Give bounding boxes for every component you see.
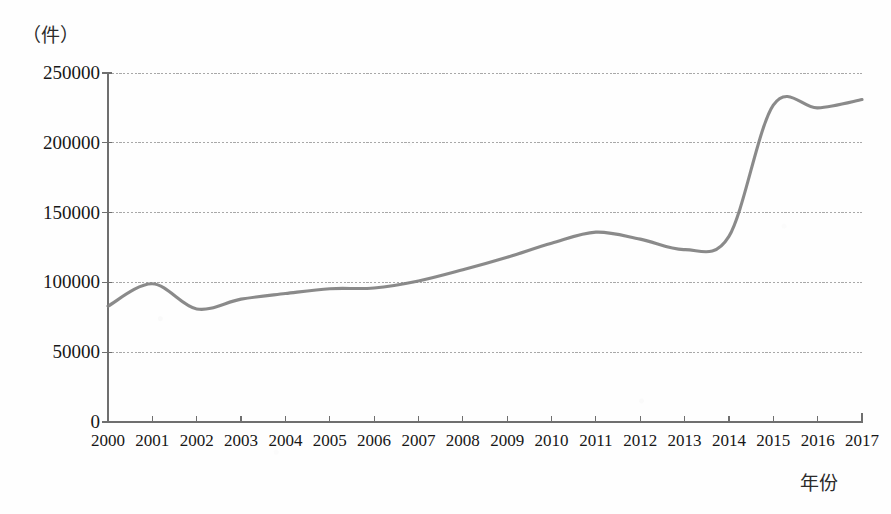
x-axis-tick-label: 2001 [135, 431, 169, 451]
chart-page: （件） 050000100000150000200000250000 20002… [0, 0, 891, 514]
x-axis-tick-label: 2012 [623, 431, 657, 451]
x-axis-tick-label: 2010 [535, 431, 569, 451]
x-axis-title: 年份 [800, 468, 838, 495]
data-series-line [108, 96, 862, 309]
x-axis-tick-label: 2007 [401, 431, 435, 451]
x-axis-tick-label: 2009 [490, 431, 524, 451]
x-axis-tick-label: 2014 [712, 431, 746, 451]
x-axis-tick-label: 2006 [357, 431, 391, 451]
x-axis-tick-label: 2005 [313, 431, 347, 451]
x-axis-tick-label: 2015 [756, 431, 790, 451]
x-axis-tick-label: 2016 [801, 431, 835, 451]
x-axis-tick-label: 2017 [845, 431, 879, 451]
x-axis-tick-label: 2004 [268, 431, 302, 451]
x-axis-tick-label: 2008 [446, 431, 480, 451]
x-axis-tick-label: 2000 [91, 431, 125, 451]
x-axis-tick-label: 2002 [180, 431, 214, 451]
y-axis-ticks [102, 73, 112, 422]
x-axis-tick-label: 2003 [224, 431, 258, 451]
axis-lines [108, 73, 862, 422]
x-axis-tick-label: 2011 [579, 431, 612, 451]
x-axis-tick-label: 2013 [668, 431, 702, 451]
gridlines [108, 73, 862, 422]
